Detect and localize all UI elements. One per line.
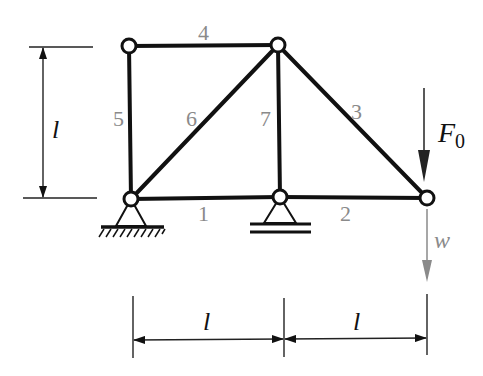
span-right-arrow [285,338,426,339]
member-5 [129,46,131,199]
truss-members [129,45,427,199]
displacement-label: w [434,227,450,253]
node-bottom-middle [273,190,287,204]
member-1 [131,197,280,199]
member-label-1: 1 [198,201,209,226]
span-right-label: l [353,307,360,336]
member-labels: 1 2 3 4 5 6 7 [113,20,362,226]
member-7 [278,45,280,197]
height-label: l [52,115,59,144]
node-bottom-right [420,191,434,205]
span-left-arrow [134,339,283,340]
member-label-4: 4 [198,20,209,45]
member-label-7: 7 [260,106,271,131]
force-arrow-head [418,150,430,182]
height-dimension: l [23,47,97,198]
member-6 [131,45,278,199]
force-label: F0 [437,117,465,152]
truss-diagram: l 1 2 3 4 5 6 7 [0,0,483,376]
member-label-6: 6 [186,106,197,131]
member-label-5: 5 [113,106,124,131]
node-top-middle [271,38,285,52]
member-4 [129,45,278,46]
displacement-arrow-head [422,260,432,282]
span-dimensions: l l [133,294,427,358]
displacement-arrow: w [422,209,450,282]
member-2 [280,197,427,198]
load-force: F0 [418,88,465,182]
node-top-left [122,39,136,53]
span-left-label: l [203,307,210,336]
node-bottom-left [124,192,138,206]
member-label-3: 3 [351,99,362,124]
member-label-2: 2 [340,201,351,226]
ground-hatch [99,229,165,237]
